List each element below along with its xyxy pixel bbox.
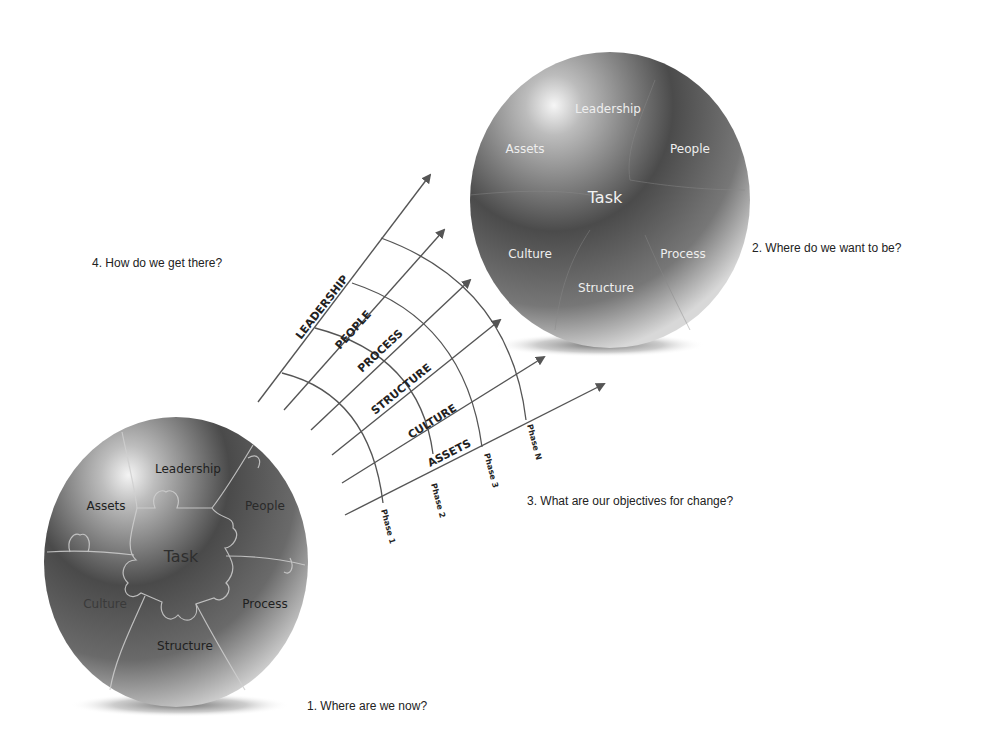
phase-1-arc <box>282 373 383 503</box>
question-where-want-to-be: 2. Where do we want to be? <box>752 241 901 255</box>
label-people: PEOPLE <box>333 308 374 352</box>
label-culture: CULTURE <box>406 402 459 442</box>
target-center-task: Task <box>587 188 623 207</box>
target-segment-assets: Assets <box>505 142 544 156</box>
current-segment-structure: Structure <box>157 639 213 653</box>
target-segment-process: Process <box>660 247 706 261</box>
target-segment-culture: Culture <box>508 247 552 261</box>
label-process: PROCESS <box>355 327 405 375</box>
current-center-task: Task <box>163 547 199 566</box>
current-segment-leadership: Leadership <box>155 462 221 476</box>
current-state-sphere: Leadership People Process Structure Cult… <box>44 417 308 717</box>
target-segment-people: People <box>670 142 710 156</box>
diagram-canvas: Leadership People Process Structure Cult… <box>0 0 987 752</box>
question-how-get-there: 4. How do we get there? <box>92 256 222 270</box>
label-structure: STRUCTURE <box>369 361 434 417</box>
change-roadmap-diagram: Leadership People Process Structure Cult… <box>0 0 987 752</box>
current-segment-process: Process <box>242 597 288 611</box>
phase-n-label: Phase N <box>525 423 543 461</box>
target-segment-structure: Structure <box>578 281 634 295</box>
current-segment-assets: Assets <box>86 499 125 513</box>
target-segment-leadership: Leadership <box>575 102 641 116</box>
question-where-are-we-now: 1. Where are we now? <box>307 699 427 713</box>
phase-2-label: Phase 2 <box>429 482 447 519</box>
current-segment-people: People <box>245 499 285 513</box>
current-segment-culture: Culture <box>83 597 127 611</box>
phase-3-label: Phase 3 <box>482 452 500 489</box>
target-state-sphere: Leadership People Process Structure Cult… <box>470 52 750 357</box>
phase-1-label: Phase 1 <box>379 508 397 545</box>
question-objectives-for-change: 3. What are our objectives for change? <box>527 494 733 508</box>
